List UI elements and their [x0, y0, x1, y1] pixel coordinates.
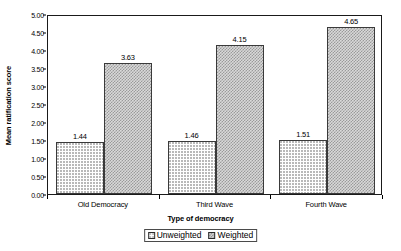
y-tick-label: 1.00: [18, 156, 44, 163]
y-axis-title-text: Mean ratification score: [5, 65, 14, 144]
y-tick-mark: [43, 87, 46, 88]
y-tick-mark: [43, 159, 46, 160]
bar-unweighted-old-democracy[interactable]: 1.44: [56, 142, 104, 194]
bar-weighted-old-democracy[interactable]: 3.63: [104, 63, 152, 194]
bar-value-label: 4.15: [233, 35, 247, 44]
bar-value-label: 4.65: [344, 17, 358, 26]
y-tick-label: 0.50: [18, 174, 44, 181]
y-tick-mark: [43, 33, 46, 34]
x-axis-group-separator: [159, 195, 160, 199]
bar-unweighted-third-wave[interactable]: 1.46: [168, 141, 216, 194]
y-tick-label: 2.00: [18, 120, 44, 127]
bar-value-label: 1.51: [296, 130, 310, 139]
y-tick-label: 4.00: [18, 48, 44, 55]
y-tick-label: 4.50: [18, 30, 44, 37]
bar-value-label: 1.46: [185, 131, 199, 140]
bars-container: 1.443.631.464.151.514.65: [48, 16, 381, 194]
y-tick-label: 3.50: [18, 66, 44, 73]
y-tick-mark: [43, 15, 46, 16]
y-tick-label: 5.00: [18, 12, 44, 19]
bar-value-label: 3.63: [121, 53, 135, 62]
y-tick-label: 0.00: [18, 192, 44, 199]
legend-item-unweighted[interactable]: Unweighted: [148, 231, 202, 240]
y-tick-mark: [43, 51, 46, 52]
x-category-label: Third Wave: [196, 200, 233, 209]
legend-swatch-weighted-icon: [209, 232, 216, 239]
y-tick-mark: [43, 69, 46, 70]
y-tick-mark: [43, 105, 46, 106]
x-category-label: Old Democracy: [78, 200, 128, 209]
legend-swatch-unweighted-icon: [148, 232, 155, 239]
chart-legend: UnweightedWeighted: [144, 229, 258, 242]
x-axis-end-tick: [382, 195, 383, 199]
x-axis-end-tick: [47, 195, 48, 199]
bar-weighted-third-wave[interactable]: 4.15: [216, 45, 264, 194]
y-tick-mark: [43, 123, 46, 124]
y-tick-label: 2.50: [18, 102, 44, 109]
bar-value-label: 1.44: [73, 132, 87, 141]
y-tick-mark: [43, 195, 46, 196]
y-tick-mark: [43, 177, 46, 178]
y-tick-mark: [43, 141, 46, 142]
x-axis-title: Type of democracy: [0, 214, 401, 223]
y-tick-label: 3.00: [18, 84, 44, 91]
legend-label: Unweighted: [157, 231, 202, 240]
x-axis-group-separator: [270, 195, 271, 199]
legend-item-weighted[interactable]: Weighted: [209, 231, 254, 240]
bar-chart: Mean ratification score 0.000.501.001.50…: [0, 0, 401, 251]
x-category-label: Fourth Wave: [305, 200, 347, 209]
y-tick-label: 1.50: [18, 138, 44, 145]
bar-unweighted-fourth-wave[interactable]: 1.51: [279, 140, 327, 194]
legend-label: Weighted: [218, 231, 254, 240]
bar-weighted-fourth-wave[interactable]: 4.65: [327, 27, 375, 194]
plot-area: 1.443.631.464.151.514.65: [47, 15, 382, 195]
